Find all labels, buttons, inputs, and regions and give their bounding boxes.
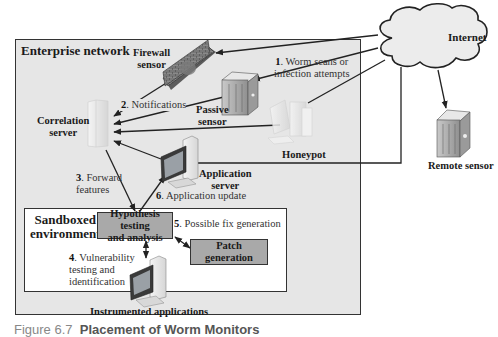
correlation-server-icon xyxy=(88,100,108,147)
step-1-label: 1. Worm scans or infection attempts xyxy=(274,56,350,80)
honeypot-icon xyxy=(268,100,312,144)
step-6-label: 6. Application update xyxy=(156,190,246,202)
step-5-label: 5. Possible fix generation xyxy=(174,218,281,230)
internet-label: Internet xyxy=(448,31,487,43)
instrumented-applications-icon xyxy=(130,256,166,307)
step-4-label: 4. Vulnerability testing and identificat… xyxy=(69,252,135,288)
remote-sensor-icon xyxy=(437,110,470,157)
firewall-icon xyxy=(163,40,216,90)
instrumented-applications-label: Instrumented applications xyxy=(90,306,208,318)
correlation-server-label: Correlation server xyxy=(37,115,89,139)
step-2-label: 2. Notifications xyxy=(121,99,186,111)
patch-generation-box: Patch generation xyxy=(190,239,268,265)
step-3-label: 3. Forward features xyxy=(76,172,122,196)
application-server-icon xyxy=(161,136,198,188)
remote-sensor-label: Remote sensor xyxy=(428,160,494,172)
honeypot-label: Honeypot xyxy=(282,149,326,161)
passive-sensor-label: Passive sensor xyxy=(196,104,229,128)
firewall-sensor-label: Firewall sensor xyxy=(133,47,170,71)
application-server-label: Application server xyxy=(199,168,252,192)
hypothesis-testing-box: Hypothesis testing and analysis xyxy=(97,212,173,239)
figure-caption: Figure 6.7 Placement of Worm Monitors xyxy=(14,322,259,337)
